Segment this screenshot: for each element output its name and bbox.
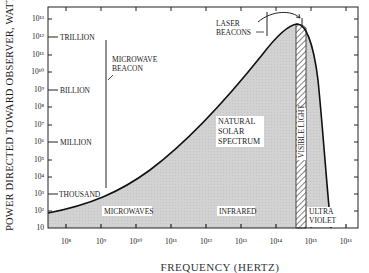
- infrared-label: INFRARED: [219, 207, 257, 216]
- x-tick-label: 10¹⁵: [305, 237, 318, 246]
- x-tick-label: 10¹³: [235, 237, 248, 246]
- y-tick-label: 10¹⁰: [31, 67, 44, 76]
- microwaves-label: MICROWAVES: [104, 207, 153, 216]
- y-tick-label: 10⁵: [34, 155, 45, 164]
- y-tick-label: 10³: [34, 189, 45, 198]
- ultraviolet-label: ULTRA: [309, 207, 334, 216]
- x-tick-label: 10⁹: [96, 237, 107, 246]
- x-tick-label: 10¹²: [200, 237, 213, 246]
- y-tick-label: 10⁴: [34, 172, 45, 181]
- solar-spectrum-label: NATURAL: [218, 117, 255, 126]
- microwave-beacon-label: MICROWAVE: [112, 55, 158, 64]
- microwave-beacon-label: BEACON: [112, 64, 143, 73]
- ultraviolet-label: VIOLET: [309, 216, 336, 225]
- y-axis-ticks: [48, 19, 58, 211]
- y-tick-label: 10⁷: [34, 120, 45, 129]
- x-tick-label: 10¹⁶: [340, 237, 353, 246]
- million-label: MILLION: [60, 138, 92, 147]
- trillion-label: TRILLION: [60, 33, 95, 42]
- y-tick-label: 10¹¹: [32, 50, 44, 59]
- solar-spectrum-label: SPECTRUM: [218, 137, 260, 146]
- laser-beacons-label: LASER: [216, 19, 240, 28]
- laser-beacons-arc-arrow: [258, 12, 300, 22]
- x-axis-title: FREQUENCY (HERTZ): [110, 261, 330, 273]
- microwave-beacon-pointer: [108, 75, 113, 80]
- x-tick-label: 10⁸: [61, 237, 72, 246]
- y-tick-label: 10¹²: [32, 32, 45, 41]
- visible-light-label: VISIBLE LIGHT: [297, 104, 306, 158]
- thousand-label: THOUSAND: [59, 190, 101, 199]
- y-tick-label: 10²: [34, 206, 45, 215]
- y-axis-ticks-right: [354, 19, 358, 211]
- solar-spectrum-label: SOLAR: [218, 127, 245, 136]
- y-tick-label: 10⁹: [34, 85, 45, 94]
- x-tick-label: 10¹⁰: [130, 237, 143, 246]
- y-tick-label: 10¹³: [32, 14, 45, 23]
- laser-beacons-label: BEACONS: [216, 28, 251, 37]
- x-axis-ticks-top: [66, 7, 346, 11]
- y-tick-label: 10⁶: [34, 137, 45, 146]
- y-tick-label: 10: [37, 223, 45, 232]
- y-tick-label: 10⁸: [34, 102, 45, 111]
- billion-label: BILLION: [60, 86, 91, 95]
- x-tick-label: 10¹¹: [165, 237, 177, 246]
- y-axis-title: POWER DIRECTED TOWARD OBSERVER, WATTS: [4, 7, 18, 231]
- x-tick-label: 10¹⁴: [270, 237, 283, 246]
